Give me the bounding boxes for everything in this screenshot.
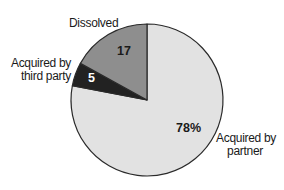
partner-label-line2: partner (216, 145, 274, 158)
partner-value: 78% (176, 122, 201, 135)
dissolved-label: Dissolved (69, 17, 118, 30)
pie-chart (0, 0, 284, 190)
pie-slices (71, 24, 223, 176)
third-party-value: 5 (88, 72, 95, 85)
dissolved-value: 17 (117, 45, 131, 58)
third-party-label-line2: third party (11, 70, 71, 83)
partner-label: Acquired by partner (216, 132, 274, 158)
third-party-label: Acquired by third party (11, 57, 71, 83)
